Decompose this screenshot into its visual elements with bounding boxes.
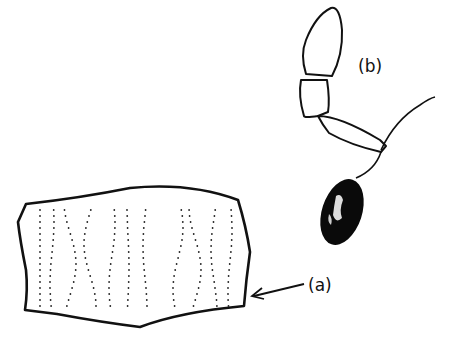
- cell-plate-a: [18, 187, 250, 328]
- dark-spore: [312, 173, 371, 250]
- label-b: (b): [358, 56, 382, 76]
- conidium-chain-b: [300, 8, 435, 178]
- stipple-dots: [39, 209, 233, 307]
- label-a: (a): [308, 275, 332, 295]
- arrow-a: [252, 284, 304, 299]
- figure-drawing: [0, 0, 451, 362]
